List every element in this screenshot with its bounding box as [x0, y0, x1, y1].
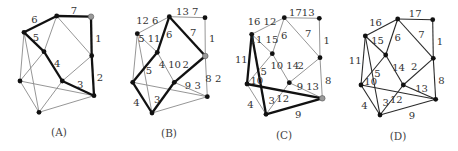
node-rl	[92, 93, 97, 98]
panel-caption: (D)	[390, 130, 407, 142]
node-tr	[317, 16, 322, 21]
edge-cl-rm	[62, 56, 91, 81]
edge-label: 6	[166, 29, 172, 40]
panel-d: 1718166715142131110512439(D)	[349, 8, 445, 142]
panel-a: 7126543(A)	[18, 5, 103, 138]
node-cl	[287, 80, 292, 85]
edge-label: 7	[71, 5, 77, 16]
edge-label: 4	[54, 58, 60, 69]
edge-label: 3	[77, 79, 83, 90]
node-cl	[172, 80, 177, 85]
graph-figure: 7126543(A)13 718 212 6675 114 1029 3543(…	[0, 0, 458, 151]
edge-label: 16 12	[248, 16, 277, 27]
edge-label: 6	[31, 14, 37, 25]
edge-label: 13 7	[176, 6, 198, 17]
edge-label: 7	[305, 28, 311, 39]
node-b	[37, 110, 42, 115]
edge-label: 5	[33, 32, 39, 43]
node-rl-highlighted	[320, 96, 326, 102]
edge-label: 5	[146, 65, 152, 76]
node-tr-highlighted	[88, 14, 94, 20]
edge-label: 8	[438, 75, 444, 86]
edge-tr-rm	[319, 18, 320, 57]
edge-label: 1	[437, 36, 443, 47]
edge-tc-tr	[284, 18, 319, 19]
edge-tc-tr	[398, 19, 433, 20]
node-lu	[363, 34, 368, 39]
edge-label: 3	[268, 95, 274, 106]
node-lu	[22, 30, 27, 35]
edge-label: 8 2	[205, 73, 221, 84]
edge-label: 9	[295, 109, 301, 120]
node-tc	[282, 15, 287, 20]
node-tr	[430, 17, 435, 22]
edge-rm-rl	[433, 58, 435, 99]
edge-label: 11	[349, 55, 362, 66]
edge-label: 9	[409, 110, 415, 121]
edge-label: 15	[371, 35, 384, 46]
edge-label: 13	[415, 83, 428, 94]
edge-rm-rl-highlighted	[92, 56, 94, 96]
edge-label: 7	[190, 27, 196, 38]
panel-b: 13 718 212 6675 114 1029 3543(B)	[130, 6, 221, 139]
panel-caption: (A)	[51, 126, 67, 138]
node-lu	[135, 31, 140, 36]
node-rl	[433, 97, 438, 102]
node-rm	[431, 56, 436, 61]
edge-label: 11	[235, 54, 248, 65]
edge-label: 6	[281, 30, 287, 41]
edge-label: 9 3	[185, 80, 201, 91]
edge-label: 6	[395, 32, 401, 43]
edge-b-rl	[39, 96, 94, 113]
node-m	[42, 49, 47, 54]
edge-label: 5 11	[138, 33, 160, 44]
edge-label: 1713	[289, 7, 314, 18]
edge-label: 14	[392, 62, 405, 73]
node-ll	[359, 83, 364, 88]
node-m	[270, 51, 275, 56]
edge-label: 2	[97, 72, 103, 83]
node-ll	[18, 79, 23, 84]
edge-label: 4 10	[159, 59, 181, 70]
node-cl	[401, 83, 406, 88]
node-m	[155, 50, 160, 55]
node-tr	[203, 15, 208, 20]
edge-label: 16	[369, 17, 382, 28]
node-b	[378, 113, 383, 118]
node-tc	[395, 17, 400, 22]
edge-label: 4	[133, 97, 139, 108]
edge-tc-rm	[284, 18, 320, 58]
edge-label: 12	[276, 93, 289, 104]
edge-label: 3	[382, 97, 388, 108]
edge-label: 8	[325, 75, 331, 86]
edge-tc-rm-highlighted	[169, 17, 205, 56]
node-cl	[60, 79, 65, 84]
edge-label: 2	[297, 60, 303, 71]
edge-label: 4	[247, 99, 253, 110]
edge-label: 2	[411, 61, 417, 72]
node-rm-highlighted	[203, 53, 209, 59]
node-tc	[167, 14, 172, 19]
node-lu	[249, 32, 254, 37]
node-ll	[245, 82, 250, 87]
panel-c: 17131816 126711 1510 1429 131110512439(C…	[235, 7, 331, 142]
panel-caption: (C)	[276, 129, 292, 141]
edge-tc-tr-highlighted	[57, 16, 91, 17]
edge-label: 2	[183, 59, 189, 70]
node-rm	[89, 53, 94, 58]
panel-caption: (B)	[161, 127, 177, 139]
edge-cl-rm	[403, 58, 433, 85]
edge-label: 3	[154, 94, 160, 105]
edge-label: 12	[390, 94, 403, 105]
node-m	[383, 53, 388, 58]
edge-label: 17	[409, 8, 422, 19]
edge-label: 9 13	[297, 81, 319, 92]
edge-label: 1	[209, 33, 215, 44]
edge-label: 5	[374, 68, 380, 79]
edge-label: 1	[95, 33, 101, 44]
edge-label: 12 6	[136, 15, 158, 26]
edge-label: 10 14	[270, 60, 299, 71]
node-rm	[318, 55, 323, 60]
edge-tc-rm	[57, 16, 92, 56]
node-b	[150, 111, 155, 116]
